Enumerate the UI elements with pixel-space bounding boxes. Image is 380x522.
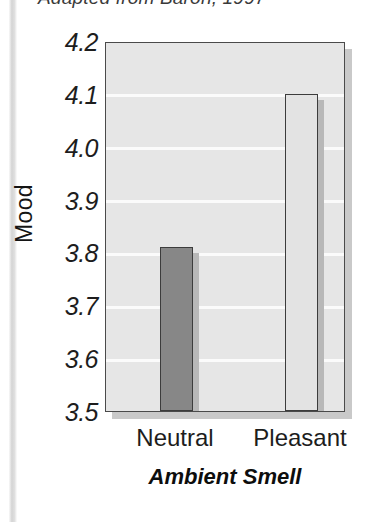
scan-artifact-strip xyxy=(9,0,17,522)
bar-pleasant[interactable] xyxy=(285,94,318,411)
plot-area xyxy=(105,42,345,412)
y-tick-label: 4.0 xyxy=(38,133,98,162)
y-tick-label: 3.6 xyxy=(38,345,98,374)
y-tick-label: 3.8 xyxy=(38,239,98,268)
x-tick-label-neutral: Neutral xyxy=(105,424,245,452)
y-axis-tick-labels: 4.24.14.03.93.83.73.63.5 xyxy=(36,0,98,522)
bar-neutral[interactable] xyxy=(160,247,193,411)
y-tick-label: 4.1 xyxy=(38,80,98,109)
y-tick-label: 3.5 xyxy=(38,398,98,427)
y-tick-label: 4.2 xyxy=(38,28,98,57)
x-axis-title: Ambient Smell xyxy=(105,464,345,490)
y-tick-label: 3.9 xyxy=(38,186,98,215)
y-tick-label: 3.7 xyxy=(38,292,98,321)
y-axis-title: Mood xyxy=(11,169,38,259)
figure-container: Adapted from Baron, 1997 4.24.14.03.93.8… xyxy=(0,0,380,522)
x-tick-label-pleasant: Pleasant xyxy=(230,424,370,452)
